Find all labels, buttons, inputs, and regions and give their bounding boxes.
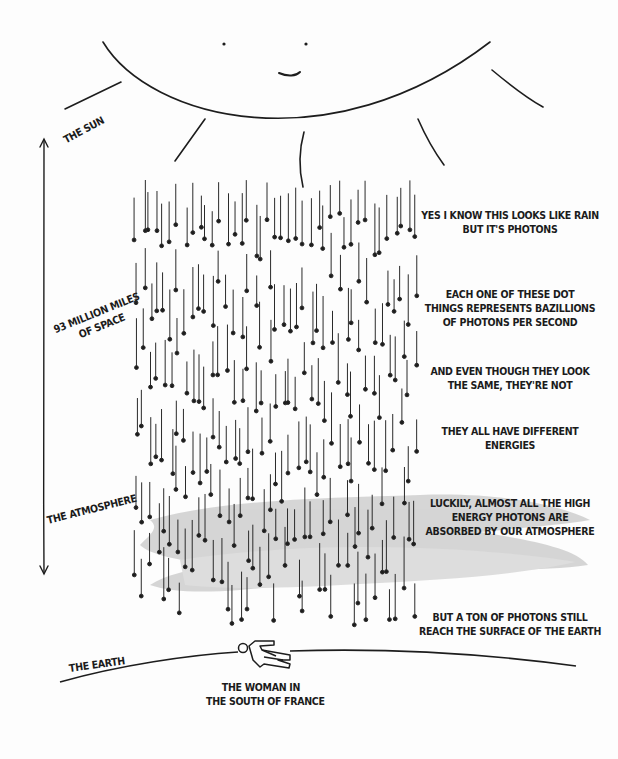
note-bazillions: EACH ONE OF THESE DOT THINGS REPRESENTS …	[410, 287, 610, 329]
sun-ray-4	[418, 119, 444, 165]
woman-label-line2: THE SOUTH OF FRANCE	[206, 694, 316, 708]
note-energies-line2: ENERGIES	[410, 438, 610, 452]
note-not-same: AND EVEN THOUGH THEY LOOK THE SAME, THEY…	[410, 364, 610, 392]
earth-surface	[60, 650, 576, 682]
distance-arrow	[40, 139, 48, 574]
note-absorbed: LUCKILY, ALMOST ALL THE HIGH ENERGY PHOT…	[410, 496, 610, 538]
sun-arc	[103, 42, 490, 118]
note-reach-surface-line1: BUT A TON OF PHOTONS STILL	[410, 610, 610, 624]
note-reach-surface-line2: REACH THE SURFACE OF THE EARTH	[410, 624, 610, 638]
sun-ray-1	[65, 82, 121, 109]
note-bazillions-line3: OF PHOTONS PER SECOND	[410, 315, 610, 329]
note-rain-line2: BUT IT'S PHOTONS	[410, 222, 610, 236]
woman-label-line1: THE WOMAN IN	[206, 680, 316, 694]
note-absorbed-line2: ENERGY PHOTONS ARE	[410, 510, 610, 524]
note-bazillions-line2: THINGS REPRESENTS BAZILLIONS	[410, 301, 610, 315]
note-energies: THEY ALL HAVE DIFFERENT ENERGIES	[410, 424, 610, 452]
note-absorbed-line3: ABSORBED BY OUR ATMOSPHERE	[410, 524, 610, 538]
sun	[65, 42, 543, 187]
note-rain: YES I KNOW THIS LOOKS LIKE RAIN BUT IT'S…	[410, 208, 610, 236]
woman-label: THE WOMAN IN THE SOUTH OF FRANCE	[206, 680, 316, 708]
sun-ray-5	[492, 70, 543, 107]
sun-ray-3	[300, 132, 304, 187]
note-not-same-line1: AND EVEN THOUGH THEY LOOK	[410, 364, 610, 378]
note-bazillions-line1: EACH ONE OF THESE DOT	[410, 287, 610, 301]
sun-eye-right	[304, 42, 307, 45]
note-energies-line1: THEY ALL HAVE DIFFERENT	[410, 424, 610, 438]
sun-mouth	[279, 72, 300, 76]
sun-ray-2	[175, 119, 205, 161]
note-reach-surface: BUT A TON OF PHOTONS STILL REACH THE SUR…	[410, 610, 610, 638]
woman-figure	[239, 641, 291, 668]
note-not-same-line2: THE SAME, THEY'RE NOT	[410, 378, 610, 392]
sun-eye-left	[222, 42, 225, 45]
note-rain-line1: YES I KNOW THIS LOOKS LIKE RAIN	[410, 208, 610, 222]
note-absorbed-line1: LUCKILY, ALMOST ALL THE HIGH	[410, 496, 610, 510]
